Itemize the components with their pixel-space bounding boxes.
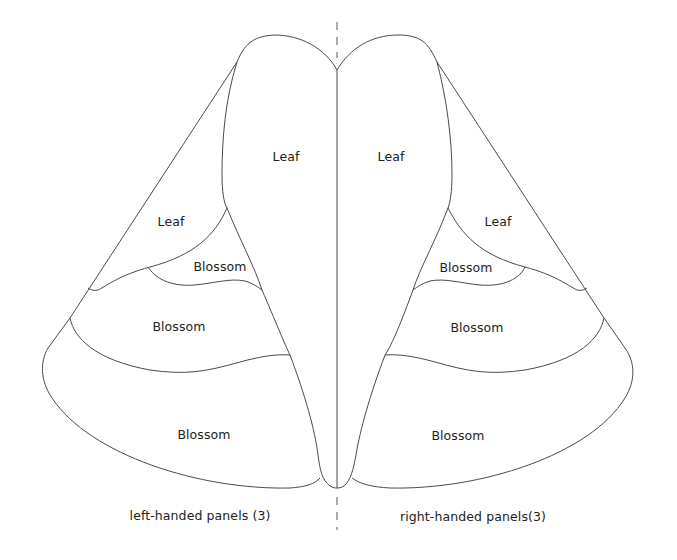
left-leaf-large-label: Leaf xyxy=(273,149,300,164)
left-blossom-bottom-label: Blossom xyxy=(177,427,230,442)
right-blossom-small-label: Blossom xyxy=(439,260,492,275)
right-outer-edge xyxy=(352,62,633,488)
right-leaf-large-label: Leaf xyxy=(378,149,405,164)
left-top-cap xyxy=(237,35,337,70)
left-outer-edge xyxy=(42,62,320,488)
left-panels xyxy=(42,35,337,488)
left-leaf-small-label: Leaf xyxy=(158,214,185,229)
right-leaf-large-boundary xyxy=(337,62,452,488)
left-leaf-large-boundary xyxy=(222,62,337,488)
left-blossom-small-label: Blossom xyxy=(193,259,246,274)
panel-diagram xyxy=(0,0,677,560)
left-group-caption: left-handed panels (3) xyxy=(130,508,271,523)
right-top-cap xyxy=(337,35,437,70)
left-blossom-middle-label: Blossom xyxy=(152,319,205,334)
right-leaf-small-boundary xyxy=(448,208,587,290)
right-blossom-bottom-label: Blossom xyxy=(431,428,484,443)
right-leaf-small-label: Leaf xyxy=(485,214,512,229)
right-blossom-middle-label: Blossom xyxy=(450,320,503,335)
right-group-caption: right-handed panels(3) xyxy=(400,509,546,524)
